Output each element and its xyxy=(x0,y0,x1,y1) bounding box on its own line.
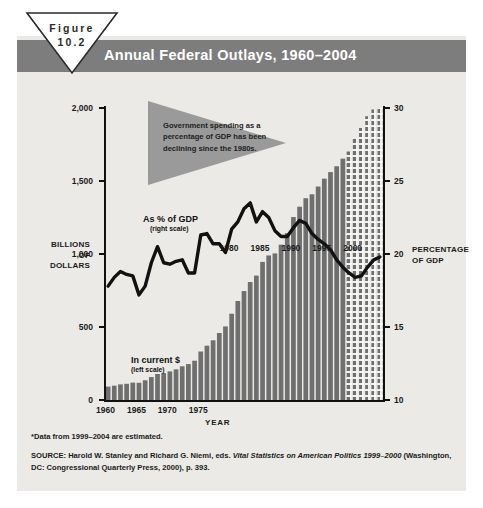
y-axis-right-tick xyxy=(383,326,390,328)
dollars-series-sublabel: (left scale) xyxy=(131,366,165,373)
x-axis-title: YEAR xyxy=(205,418,230,427)
inline-year-label: 1985 xyxy=(251,243,270,253)
bar xyxy=(180,366,185,400)
bar xyxy=(106,387,111,400)
bar xyxy=(273,253,278,400)
y-axis-right-tick-label: 30 xyxy=(394,103,403,113)
bar xyxy=(334,166,339,400)
bar xyxy=(223,326,228,400)
bar xyxy=(285,233,290,400)
source-prefix: SOURCE: Harold W. Stanley and Richard G.… xyxy=(31,451,233,460)
y-axis-left-title-line-1: BILLIONS xyxy=(24,240,90,251)
y-axis-right-tick xyxy=(383,107,390,109)
y-axis-right-tick-label: 25 xyxy=(394,176,403,186)
bar xyxy=(260,262,265,400)
bar-estimated xyxy=(353,139,358,400)
bar xyxy=(174,369,179,400)
source-title: Vital Statistics on American Politics 19… xyxy=(233,451,402,460)
bar xyxy=(242,291,247,400)
dollars-series-label: In current $ xyxy=(131,355,180,365)
bar xyxy=(279,245,284,400)
bar xyxy=(161,373,166,400)
bar-estimated xyxy=(365,116,370,400)
bar-estimated xyxy=(359,128,364,400)
y-axis-left-tick xyxy=(99,180,106,182)
bar xyxy=(328,172,333,400)
figure-container: Annual Federal Outlays, 1960–2004 Figure… xyxy=(0,0,483,508)
y-axis-right-title-line-2: OF GDP xyxy=(412,256,482,267)
y-axis-left-title: BILLIONS OF DOLLARS xyxy=(24,240,90,272)
bar xyxy=(211,340,216,400)
bar xyxy=(248,282,253,400)
x-axis-tick-label: 1965 xyxy=(127,405,146,415)
bar xyxy=(310,194,315,400)
y-axis-right-tick-label: 10 xyxy=(394,395,403,405)
x-axis-line xyxy=(104,400,385,402)
y-axis-left-tick xyxy=(99,107,106,109)
inline-year-label: 1995 xyxy=(312,243,331,253)
y-axis-right-tick xyxy=(383,399,390,401)
bar xyxy=(137,383,142,400)
bar xyxy=(229,314,234,400)
bar xyxy=(130,383,135,400)
y-axis-left-tick xyxy=(99,253,106,255)
bar xyxy=(254,276,259,400)
bar xyxy=(149,377,154,400)
x-axis-tick-label: 1960 xyxy=(96,405,115,415)
y-axis-left-tick xyxy=(99,326,106,328)
y-axis-right-tick-label: 15 xyxy=(394,322,403,332)
bar-estimated xyxy=(371,109,376,400)
source-note: SOURCE: Harold W. Stanley and Richard G.… xyxy=(31,450,455,473)
estimate-footnote: *Data from 1999–2004 are estimated. xyxy=(31,432,163,441)
bar xyxy=(198,352,203,400)
bar xyxy=(266,255,271,400)
badge-label-figure: Figure xyxy=(24,22,120,34)
inline-year-label: 1980 xyxy=(220,243,239,253)
bar xyxy=(322,179,327,400)
bar xyxy=(168,371,173,400)
bar xyxy=(118,384,123,400)
figure-badge: Figure 10.2 xyxy=(24,10,120,76)
y-axis-left-tick xyxy=(99,399,106,401)
y-axis-left-tick-label: 2,000 xyxy=(37,103,93,113)
bar xyxy=(112,386,117,400)
y-axis-left-tick-label: 0 xyxy=(37,395,93,405)
inline-year-label: 1990 xyxy=(281,243,300,253)
y-axis-left-title-line-2: OF xyxy=(24,251,90,262)
y-axis-right-title-line-1: PERCENTAGE xyxy=(412,245,482,256)
y-axis-left-tick-label: 500 xyxy=(37,322,93,332)
bar xyxy=(124,384,129,400)
bar xyxy=(297,207,302,400)
bar xyxy=(192,361,197,400)
page-title: Annual Federal Outlays, 1960–2004 xyxy=(104,47,404,67)
x-axis-tick-label: 1975 xyxy=(189,405,208,415)
y-axis-right-tick-label: 20 xyxy=(394,249,403,259)
y-axis-right-tick xyxy=(383,180,390,182)
y-axis-right-title: PERCENTAGE OF GDP xyxy=(412,245,482,266)
y-axis-right-tick xyxy=(383,253,390,255)
gdp-series-sublabel: (right scale) xyxy=(150,225,189,232)
inline-year-label: 2000 xyxy=(343,243,362,253)
x-axis-tick-label: 1970 xyxy=(158,405,177,415)
bar xyxy=(316,187,321,400)
y-axis-left-tick-label: 1,500 xyxy=(37,176,93,186)
bar xyxy=(143,380,148,400)
bar xyxy=(205,346,210,400)
bar xyxy=(341,159,346,400)
gdp-series-label: As % of GDP xyxy=(143,214,198,224)
bar-estimated xyxy=(378,108,383,400)
bar xyxy=(235,301,240,400)
y-axis-left-title-line-3: DOLLARS xyxy=(24,261,90,272)
bar xyxy=(217,333,222,400)
badge-label-number: 10.2 xyxy=(24,36,120,48)
bar xyxy=(155,374,160,400)
bar xyxy=(186,364,191,400)
